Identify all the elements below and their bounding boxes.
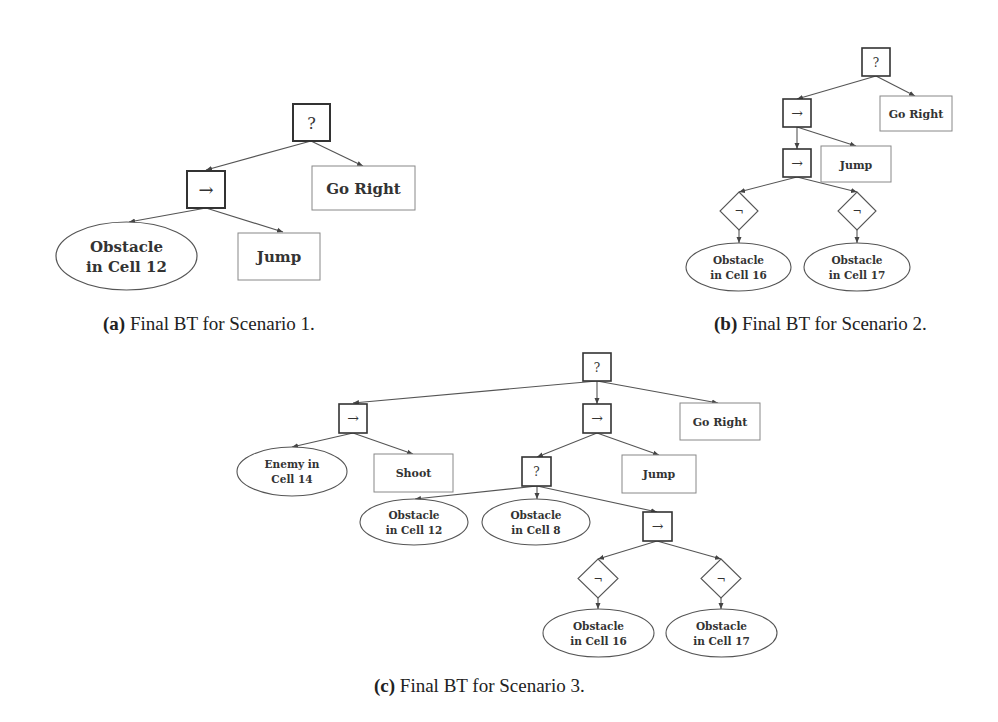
behavior-tree-figures: ? → Go Right Obstacle in Cell 12 Jump xyxy=(0,0,998,722)
sequence-node-left: → xyxy=(339,404,367,433)
svg-text:in Cell 12: in Cell 12 xyxy=(386,524,443,536)
inverter-node-2: ¬ xyxy=(701,559,741,598)
svg-text:→: → xyxy=(652,518,664,534)
svg-text:→: → xyxy=(791,105,803,121)
svg-text:Jump: Jump xyxy=(839,159,873,172)
svg-text:→: → xyxy=(198,179,213,200)
svg-text:¬: ¬ xyxy=(734,205,743,218)
sequence-node-2: → xyxy=(783,149,811,177)
caption-c-letter: (c) xyxy=(374,675,395,696)
fallback-node-inner: ? xyxy=(522,457,551,486)
condition-obstacle-cell-8: Obstacle in Cell 8 xyxy=(482,499,590,545)
svg-text:?: ? xyxy=(533,465,539,479)
caption-a: (a) Final BT for Scenario 1. xyxy=(103,313,315,335)
action-go-right: Go Right xyxy=(312,166,415,210)
svg-text:in Cell 16: in Cell 16 xyxy=(710,269,767,281)
figure-b: ? → Go Right → Jump ¬ ¬ Obstacle xyxy=(686,48,952,291)
svg-text:in Cell 16: in Cell 16 xyxy=(570,635,627,647)
caption-a-text: Final BT for Scenario 1. xyxy=(125,313,315,334)
condition-obstacle-cell-16: Obstacle in Cell 16 xyxy=(543,609,654,657)
svg-text:Jump: Jump xyxy=(642,468,676,481)
caption-b-letter: (b) xyxy=(714,313,737,334)
action-jump: Jump xyxy=(622,455,696,493)
svg-text:¬: ¬ xyxy=(852,205,861,218)
caption-a-letter: (a) xyxy=(103,313,125,334)
inverter-node-1: ¬ xyxy=(578,559,618,598)
figure-c: ? → → Go Right Enemy in Cell 14 Shoot ? xyxy=(237,353,777,657)
svg-text:Obstacle: Obstacle xyxy=(713,254,764,266)
svg-text:?: ? xyxy=(594,361,600,375)
svg-text:Cell 14: Cell 14 xyxy=(271,473,312,485)
condition-obstacle-cell-12: Obstacle in Cell 12 xyxy=(360,499,468,545)
svg-text:Shoot: Shoot xyxy=(396,467,433,480)
inverter-node-2: ¬ xyxy=(838,192,876,230)
condition-obstacle-cell-17: Obstacle in Cell 17 xyxy=(804,243,910,291)
svg-text:in Cell 8: in Cell 8 xyxy=(511,524,560,536)
svg-text:Go Right: Go Right xyxy=(326,180,401,198)
action-go-right: Go Right xyxy=(680,403,760,440)
svg-text:Obstacle: Obstacle xyxy=(696,620,747,632)
condition-obstacle-cell-17: Obstacle in Cell 17 xyxy=(666,609,777,657)
svg-text:Go Right: Go Right xyxy=(889,108,945,121)
action-jump: Jump xyxy=(238,233,320,280)
svg-text:Obstacle: Obstacle xyxy=(388,509,439,521)
action-shoot: Shoot xyxy=(374,454,453,492)
action-go-right: Go Right xyxy=(880,96,952,131)
svg-text:¬: ¬ xyxy=(716,573,725,586)
condition-enemy-cell-14: Enemy in Cell 14 xyxy=(237,447,347,496)
svg-text:Enemy in: Enemy in xyxy=(265,458,320,470)
caption-b: (b) Final BT for Scenario 2. xyxy=(714,313,927,335)
svg-text:Obstacle: Obstacle xyxy=(831,254,882,266)
svg-text:in Cell 12: in Cell 12 xyxy=(86,258,167,276)
sequence-node: → xyxy=(187,171,225,208)
svg-text:in Cell 17: in Cell 17 xyxy=(829,269,886,281)
condition-obstacle-cell-16: Obstacle in Cell 16 xyxy=(686,243,791,291)
sequence-node-right: → xyxy=(643,512,672,541)
fallback-node-root: ? xyxy=(583,353,611,381)
caption-c: (c) Final BT for Scenario 3. xyxy=(374,675,585,697)
svg-text:Go Right: Go Right xyxy=(693,416,749,429)
fallback-node: ? xyxy=(862,48,890,76)
action-jump: Jump xyxy=(821,146,891,182)
caption-c-text: Final BT for Scenario 3. xyxy=(395,675,585,696)
condition-obstacle-cell-12: Obstacle in Cell 12 xyxy=(56,222,197,290)
svg-text:Jump: Jump xyxy=(255,248,301,266)
svg-text:?: ? xyxy=(873,56,879,70)
sequence-node-1: → xyxy=(783,99,811,127)
svg-text:→: → xyxy=(591,410,603,426)
svg-text:Obstacle: Obstacle xyxy=(90,238,163,256)
inverter-node-1: ¬ xyxy=(720,192,758,230)
fallback-node: ? xyxy=(293,104,330,141)
sequence-node-middle: → xyxy=(583,404,611,433)
caption-b-text: Final BT for Scenario 2. xyxy=(737,313,927,334)
svg-text:in Cell 17: in Cell 17 xyxy=(693,635,750,647)
svg-text:→: → xyxy=(347,410,359,426)
svg-text:Obstacle: Obstacle xyxy=(510,509,561,521)
svg-text:¬: ¬ xyxy=(593,573,602,586)
figure-a: ? → Go Right Obstacle in Cell 12 Jump xyxy=(56,104,415,290)
svg-text:?: ? xyxy=(307,114,316,133)
svg-text:Obstacle: Obstacle xyxy=(573,620,624,632)
svg-text:→: → xyxy=(791,155,803,171)
